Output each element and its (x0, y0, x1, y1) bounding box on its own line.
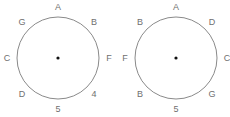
center-dot (174, 56, 177, 59)
point-label-left: F (122, 53, 128, 63)
point-label-bottom-right: G (209, 89, 216, 99)
left-circle: ABF45DCG (4, 2, 113, 114)
point-label-bottom-left: D (19, 89, 26, 99)
point-label-top: A (173, 2, 179, 12)
point-label-top-right: B (91, 17, 97, 27)
point-label-top: A (55, 2, 61, 12)
point-label-right: C (224, 53, 230, 63)
right-circle: ADCG5BFB (122, 2, 230, 114)
center-dot (56, 56, 59, 59)
circle-diagrams: ABF45DCGADCG5BFB (0, 0, 230, 117)
point-label-bottom-left: B (137, 89, 143, 99)
point-label-bottom: 5 (173, 104, 178, 114)
point-label-top-left: G (18, 17, 25, 27)
point-label-bottom: 5 (55, 104, 60, 114)
point-label-right: F (106, 53, 112, 63)
point-label-top-left: B (137, 17, 143, 27)
point-label-top-right: D (209, 17, 216, 27)
point-label-bottom-right: 4 (92, 89, 97, 99)
point-label-left: C (4, 53, 11, 63)
